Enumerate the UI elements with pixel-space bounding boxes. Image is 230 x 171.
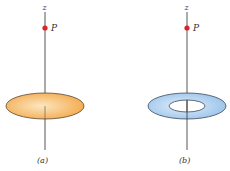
z-axis-label: z [42, 3, 48, 12]
point-p-label: P [50, 23, 58, 33]
panel-b: z P (b) [148, 3, 226, 165]
figure-canvas: z P (a) z P (b) [0, 0, 230, 171]
point-p-marker [42, 25, 47, 30]
caption-b: (b) [179, 156, 190, 165]
point-p-label: P [192, 23, 200, 33]
panel-a: z P (a) [6, 3, 84, 165]
caption-a: (a) [37, 156, 48, 165]
z-axis-label: z [184, 3, 190, 12]
point-p-marker [184, 25, 189, 30]
